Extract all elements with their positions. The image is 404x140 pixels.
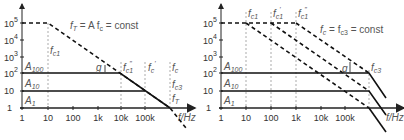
svg-text:10k: 10k bbox=[314, 113, 329, 123]
right-x-label: f/Hz bbox=[386, 112, 404, 123]
svg-text:10: 10 bbox=[203, 69, 213, 79]
svg-text:100: 100 bbox=[65, 113, 80, 123]
right-g-label: g bbox=[342, 63, 348, 74]
left-label-fT: fT bbox=[172, 93, 180, 105]
svg-text:1: 1 bbox=[206, 103, 211, 113]
left-label-fc3: fc3 bbox=[172, 79, 182, 91]
left-label-A1: A1 bbox=[24, 95, 36, 107]
left-chart: 1 10 10 2 10 3 10 4 10 5 1 10 100 1k 10k… bbox=[4, 4, 196, 128]
right-label-A100: A100 bbox=[223, 61, 242, 73]
svg-text:10: 10 bbox=[4, 69, 14, 79]
svg-text:1: 1 bbox=[218, 113, 223, 123]
svg-text:10: 10 bbox=[43, 113, 53, 123]
right-label-fc1: fc1 bbox=[248, 8, 258, 20]
svg-text:4: 4 bbox=[14, 33, 18, 40]
svg-text:10: 10 bbox=[4, 19, 14, 29]
svg-text:10: 10 bbox=[203, 53, 213, 63]
right-label-fc3: fc3 bbox=[371, 62, 381, 74]
svg-text:3: 3 bbox=[14, 50, 18, 57]
svg-text:1k: 1k bbox=[93, 113, 103, 123]
svg-text:10: 10 bbox=[203, 36, 213, 46]
left-g-label: g bbox=[96, 62, 102, 73]
left-label-A100: A100 bbox=[24, 61, 43, 73]
svg-text:5: 5 bbox=[213, 16, 217, 23]
svg-text:10: 10 bbox=[203, 86, 213, 96]
right-open-loop-fc1 bbox=[246, 23, 369, 108]
right-y-ticks: 1 10 10 2 10 3 10 4 10 5 bbox=[203, 16, 223, 113]
svg-text:100: 100 bbox=[263, 113, 278, 123]
svg-text:5: 5 bbox=[14, 16, 18, 23]
left-y-ticks: 1 10 10 2 10 3 10 4 10 5 bbox=[4, 16, 24, 113]
right-chart: 1 10 10 2 10 3 10 4 10 5 1 10 100 1k 10k… bbox=[203, 4, 404, 132]
svg-text:2: 2 bbox=[14, 66, 18, 73]
left-label-fc1: fc1 bbox=[50, 45, 60, 57]
right-label-fc1p: fc1' bbox=[273, 6, 283, 20]
svg-text:1: 1 bbox=[19, 113, 24, 123]
svg-text:10: 10 bbox=[4, 36, 14, 46]
right-label-A1: A1 bbox=[223, 95, 235, 107]
svg-text:4: 4 bbox=[213, 33, 217, 40]
left-label-A10: A10 bbox=[24, 78, 40, 90]
svg-text:100k: 100k bbox=[135, 113, 155, 123]
svg-text:1: 1 bbox=[7, 103, 12, 113]
svg-text:3: 3 bbox=[213, 50, 217, 57]
svg-text:2: 2 bbox=[213, 66, 217, 73]
left-label-fcp: fc' bbox=[148, 60, 156, 74]
svg-text:10: 10 bbox=[241, 113, 251, 123]
svg-text:10: 10 bbox=[203, 19, 213, 29]
left-formula: fT = A fc = const bbox=[70, 20, 139, 32]
left-label-fc: fc bbox=[172, 62, 179, 74]
svg-text:10: 10 bbox=[4, 53, 14, 63]
right-label-A10: A10 bbox=[223, 78, 239, 90]
left-label-fc1pp: fc1" bbox=[123, 60, 133, 74]
right-label-fc1pp: fc1" bbox=[298, 6, 308, 20]
svg-text:10k: 10k bbox=[114, 113, 129, 123]
diagram-canvas: 1 10 10 2 10 3 10 4 10 5 1 10 100 1k 10k… bbox=[0, 0, 404, 140]
svg-text:1k: 1k bbox=[291, 113, 301, 123]
svg-text:100k: 100k bbox=[335, 113, 355, 123]
right-formula: fc = fc3 = const bbox=[320, 24, 383, 36]
svg-text:10: 10 bbox=[4, 86, 14, 96]
